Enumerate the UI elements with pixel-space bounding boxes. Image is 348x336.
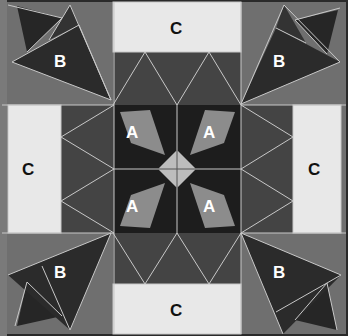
label-a-bottom-right: A — [203, 197, 215, 216]
label-c-right: C — [308, 160, 320, 179]
label-a-bottom-left: A — [126, 197, 138, 216]
label-b-bottom-left: B — [54, 263, 66, 282]
label-a-top-left: A — [126, 123, 138, 142]
label-c-bottom: C — [170, 301, 182, 320]
label-c-left: C — [22, 160, 34, 179]
piece-c-left — [8, 105, 61, 233]
band-bottom — [113, 233, 241, 284]
band-left — [61, 105, 114, 233]
label-b-bottom-right: B — [273, 263, 285, 282]
band-right — [241, 105, 293, 233]
outer-edge-left — [0, 0, 7, 336]
label-b-top-left: B — [54, 52, 66, 71]
quilt-block-diagram: C C C C B B B B A A A A — [0, 0, 348, 336]
band-top — [113, 52, 241, 105]
label-c-top: C — [170, 19, 182, 38]
label-a-top-right: A — [203, 123, 215, 142]
label-b-top-right: B — [273, 52, 285, 71]
